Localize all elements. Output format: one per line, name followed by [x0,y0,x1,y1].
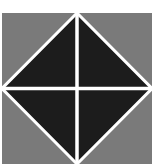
diamond-tile [2,13,152,164]
diamond-cross-graphic [2,13,152,164]
